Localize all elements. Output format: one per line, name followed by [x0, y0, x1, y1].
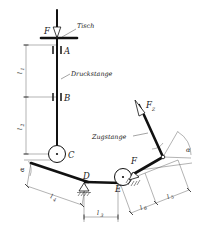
mechanism-figure: F F Z Tisch Druckstange Zugstange A B C …: [0, 0, 200, 238]
joint-c-center: [56, 153, 58, 155]
leader-lines: [61, 29, 148, 136]
dim-tick-l4-left: [25, 184, 29, 188]
label-point-c: C: [68, 150, 75, 160]
label-force-f: F: [43, 26, 51, 36]
label-dim-l2: l: [16, 128, 23, 130]
label-point-b: B: [63, 93, 70, 103]
tie-rod-pivot: [161, 155, 165, 159]
link-c-d: [31, 163, 88, 182]
dim-tick-l6-right: [154, 201, 158, 205]
ext-line-f-diag: [145, 173, 156, 203]
label-tisch: Tisch: [77, 22, 94, 30]
label-angle-alpha-right: α: [186, 146, 191, 154]
label-zugstange: Zugstange: [91, 133, 127, 141]
label-dim-l5-subscript: 5: [170, 194, 175, 200]
dim-tick-l6-left: [129, 211, 133, 215]
label-dim-l3: l: [97, 209, 99, 216]
label-dim-l6-subscript: 6: [143, 205, 148, 211]
dim-tick-l4-right: [80, 203, 84, 207]
label-angle-alpha-left: α: [18, 167, 26, 172]
label-dim-l5-group: l 5: [166, 191, 175, 201]
label-point-f: F: [130, 156, 138, 166]
label-dim-l2-group: l 2: [16, 124, 25, 130]
label-angle-left-group: α: [18, 167, 26, 172]
leader-tisch: [62, 29, 76, 37]
support-d-triangle: [79, 183, 89, 191]
force-f-arrowhead: [53, 27, 61, 38]
label-dim-l3-group: l 3: [97, 209, 103, 218]
label-point-a: A: [63, 46, 70, 56]
mechanism-drawing: F F Z Tisch Druckstange Zugstange A B C …: [0, 0, 200, 238]
label-druckstange: Druckstange: [70, 70, 113, 78]
label-dim-l1: l: [16, 72, 23, 74]
alpha-right-side-a: [163, 131, 178, 157]
tie-rod: [144, 115, 163, 157]
label-point-d: D: [82, 171, 90, 181]
force-fz-arrowhead: [135, 100, 145, 116]
text-labels: F F Z Tisch Druckstange Zugstange A B C …: [16, 22, 191, 218]
label-dim-l2-subscript: 2: [20, 124, 25, 128]
label-force-fz-subscript: Z: [151, 107, 156, 112]
leader-zugstange: [133, 133, 148, 136]
label-dim-l3-subscript: 3: [100, 213, 103, 218]
label-dim-l6-group: l 6: [139, 202, 148, 212]
structure: [31, 10, 165, 186]
ext-line-e-diag: [120, 183, 131, 213]
label-dim-l4-group: l 4: [49, 192, 58, 202]
joint-f-center: [122, 176, 124, 178]
label-dim-l1-subscript: 1: [20, 68, 25, 71]
leader-druckstange: [61, 74, 70, 79]
label-dim-l1-group: l 1: [16, 68, 25, 74]
alpha-right-side-b: [163, 157, 191, 158]
dim-tick-l5-right: [187, 188, 191, 192]
label-point-e: E: [114, 184, 122, 194]
